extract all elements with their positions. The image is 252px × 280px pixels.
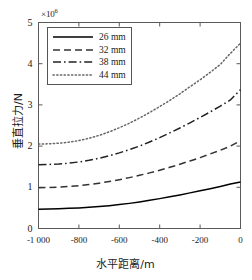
- legend-item-26-mm: 26 mm: [51, 31, 127, 44]
- x-axis-title: 水平距离/m: [0, 258, 251, 271]
- x-tick-label: -200: [177, 235, 223, 245]
- series-line-32-mm: [39, 141, 241, 188]
- legend-item-32-mm: 32 mm: [51, 44, 127, 57]
- figure-container: ×106 012345 -1 000-800-600-400-2000 水平距离…: [0, 0, 251, 280]
- y-axis-title: 垂直拉力/N: [13, 61, 25, 181]
- series-line-26-mm: [39, 182, 241, 209]
- legend-item-44-mm: 44 mm: [51, 69, 127, 82]
- legend-item-label: 38 mm: [95, 57, 126, 67]
- y-tick-label: 5: [17, 18, 33, 28]
- y-tick-label: 1: [17, 182, 33, 192]
- y-axis-exponent-base: ×10: [41, 9, 54, 19]
- x-tick-label: -400: [137, 235, 183, 245]
- x-tick-label: 0: [218, 235, 252, 245]
- x-tick-label: -600: [96, 235, 142, 245]
- x-tick-label: -1 000: [16, 235, 62, 245]
- legend-line-swatch: [51, 56, 95, 68]
- legend-line-swatch: [51, 31, 95, 43]
- legend-line-swatch: [51, 69, 95, 81]
- legend-line-swatch: [51, 44, 95, 56]
- y-axis-exponent-label: ×106: [41, 6, 58, 19]
- legend-item-label: 32 mm: [95, 45, 126, 55]
- y-tick-label: 0: [17, 224, 33, 234]
- chart-legend: 26 mm32 mm38 mm44 mm: [47, 27, 132, 85]
- x-tick-label: -800: [56, 235, 102, 245]
- legend-item-label: 44 mm: [95, 70, 126, 80]
- legend-item-label: 26 mm: [95, 32, 126, 42]
- legend-item-38-mm: 38 mm: [51, 56, 127, 69]
- y-axis-exponent-power: 6: [54, 7, 57, 14]
